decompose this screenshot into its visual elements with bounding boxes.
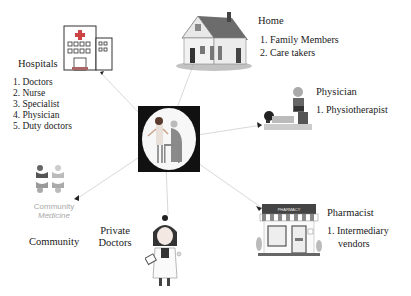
list-item: 1. Intermediary bbox=[327, 224, 389, 237]
private-doctors-title-line1: Private bbox=[97, 225, 133, 237]
physician-node bbox=[260, 84, 314, 134]
list-item: 2. Nurse bbox=[13, 88, 72, 99]
community-node: Community Medicine bbox=[30, 160, 78, 220]
list-item: 2. Care takers bbox=[260, 46, 339, 59]
list-item: 1. Family Members bbox=[260, 33, 339, 46]
list-item: 1. Doctors bbox=[13, 77, 72, 88]
physician-list: 1. Physiotherapist bbox=[316, 104, 388, 115]
home-title: Home bbox=[258, 15, 284, 27]
physiotherapist-icon bbox=[260, 84, 314, 134]
community-title: Community bbox=[29, 236, 79, 248]
hospitals-list: 1. Doctors 2. Nurse 3. Specialist 4. Phy… bbox=[13, 77, 72, 132]
community-logo-text-1: Community bbox=[30, 202, 78, 211]
community-medicine-logo-icon bbox=[30, 160, 78, 200]
hospital-node bbox=[62, 22, 114, 74]
list-item: vendors bbox=[327, 237, 389, 250]
list-item: 5. Duty doctors bbox=[13, 121, 72, 132]
hospital-building-icon bbox=[62, 22, 114, 74]
community-logo-text-2: Medicine bbox=[30, 211, 78, 220]
caregiver-icon bbox=[138, 106, 200, 172]
house-icon bbox=[172, 10, 256, 72]
list-item: 1. Physiotherapist bbox=[316, 104, 388, 115]
private-doctors-title: Private Doctors bbox=[97, 225, 133, 249]
list-item: 4. Physician bbox=[13, 110, 72, 121]
home-node bbox=[172, 10, 256, 72]
home-list: 1. Family Members 2. Care takers bbox=[260, 33, 339, 59]
list-item: 3. Specialist bbox=[13, 99, 72, 110]
center-caregiver-image bbox=[138, 106, 200, 172]
female-doctor-icon bbox=[145, 212, 185, 292]
pharmacy-store-icon: PHARMACY bbox=[254, 202, 324, 262]
hospitals-title: Hospitals bbox=[18, 58, 58, 70]
private-doctors-title-line2: Doctors bbox=[97, 237, 133, 249]
pharmacy-sign-text: PHARMACY bbox=[278, 207, 301, 212]
physician-title: Physician bbox=[316, 86, 357, 98]
pharmacist-list: 1. Intermediary vendors bbox=[327, 224, 389, 250]
pharmacy-node: PHARMACY bbox=[254, 202, 324, 262]
pharmacist-title: Pharmacist bbox=[327, 207, 374, 219]
private-doctor-node bbox=[145, 212, 185, 292]
